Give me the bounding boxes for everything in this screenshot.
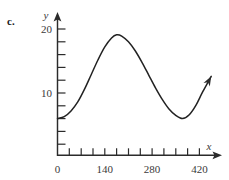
- x-axis-group: 0 140 280 420 x: [55, 140, 222, 175]
- y-tick-label-20: 20: [41, 23, 53, 35]
- curve-end-arrowhead: [203, 76, 211, 86]
- x-tick-label-0: 0: [55, 163, 61, 175]
- graph-plot: 20 10 y 0 140 280 420 x: [0, 0, 229, 180]
- x-tick-label-420: 420: [191, 163, 208, 175]
- x-tick-label-280: 280: [144, 163, 161, 175]
- sinusoidal-curve: [58, 35, 212, 119]
- y-tick-label-10: 10: [41, 87, 53, 99]
- x-axis-label: x: [206, 140, 212, 152]
- y-axis-group: 20 10 y: [41, 9, 66, 156]
- figure-container: c. 20 10 y: [0, 0, 229, 180]
- y-axis-label: y: [43, 9, 49, 21]
- x-tick-label-140: 140: [97, 163, 114, 175]
- curve-group: [58, 35, 212, 119]
